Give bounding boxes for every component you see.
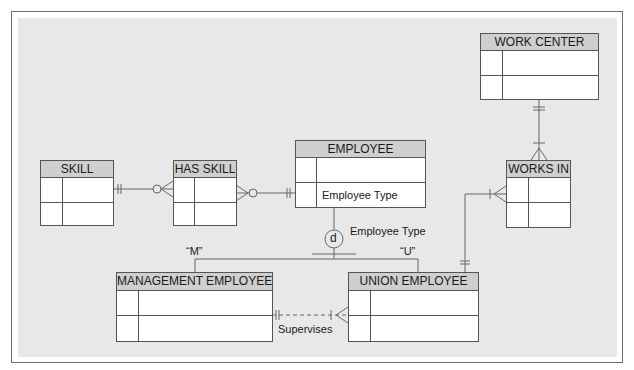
relationship-label-supervises: Supervises [278, 323, 332, 335]
entity-works-in[interactable]: WORKS IN [506, 160, 571, 228]
entity-row [41, 203, 113, 225]
entity-row [296, 158, 425, 183]
attribute-employee-type: Employee Type [322, 189, 398, 201]
entity-title: HAS SKILL [174, 161, 236, 178]
subtype-value-m: “M” [186, 245, 203, 257]
discriminator-label: Employee Type [350, 225, 426, 237]
rel-employee-hasskill [236, 185, 295, 201]
rel-skill-hasskill [113, 181, 176, 197]
entity-row [117, 316, 272, 341]
entity-work-center[interactable]: WORK CENTER [480, 33, 599, 100]
entity-row [481, 51, 598, 76]
entity-title: WORK CENTER [481, 34, 598, 51]
entity-row [174, 178, 236, 203]
entity-row [481, 76, 598, 99]
entity-title: WORKS IN [507, 161, 570, 178]
entity-management-employee[interactable]: MANAGEMENT EMPLOYEE [116, 272, 273, 342]
entity-title: MANAGEMENT EMPLOYEE [117, 273, 272, 291]
subtype-value-u: “U” [400, 245, 415, 257]
entity-title: SKILL [41, 161, 113, 178]
entity-has-skill[interactable]: HAS SKILL [173, 160, 237, 226]
entity-row [41, 178, 113, 203]
entity-row [349, 291, 478, 316]
entity-employee[interactable]: EMPLOYEE Employee Type [295, 140, 426, 208]
entity-title: EMPLOYEE [296, 141, 425, 158]
rel-unionemployee-worksin [460, 186, 506, 272]
entity-row: Employee Type [296, 183, 425, 207]
subtype-symbol: d [330, 231, 337, 245]
entity-skill[interactable]: SKILL [40, 160, 114, 226]
rel-workcenter-worksin [531, 99, 547, 160]
entity-row [507, 178, 570, 203]
entity-union-employee[interactable]: UNION EMPLOYEE [348, 272, 479, 342]
entity-row [349, 316, 478, 341]
rel-supervises [272, 307, 348, 323]
entity-row [507, 203, 570, 227]
entity-row [174, 203, 236, 225]
entity-row [117, 291, 272, 316]
entity-title: UNION EMPLOYEE [349, 273, 478, 291]
